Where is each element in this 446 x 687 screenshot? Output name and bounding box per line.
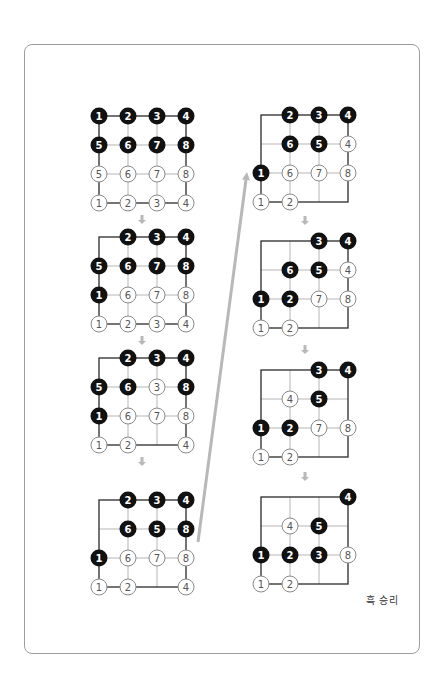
svg-text:1: 1 [258,197,264,208]
svg-text:7: 7 [316,294,322,305]
black-stone-1: 1 [91,287,108,304]
black-stone-6: 6 [120,258,137,275]
black-stone-2: 2 [282,291,299,308]
white-stone-7: 7 [311,165,327,181]
black-stone-2: 2 [282,107,299,124]
svg-text:1: 1 [258,168,265,179]
board-step-7: 3445127812 [253,362,357,466]
svg-text:4: 4 [183,319,189,330]
white-stone-5: 5 [91,166,107,182]
white-stone-2: 2 [282,320,298,336]
svg-text:4: 4 [183,495,190,506]
white-stone-4: 4 [340,262,356,278]
black-stone-5: 5 [149,521,166,538]
black-stone-6: 6 [120,521,137,538]
black-stone-1: 1 [91,408,108,425]
black-stone-6: 6 [282,136,299,153]
black-stone-6: 6 [282,262,299,279]
svg-text:4: 4 [345,365,352,376]
svg-text:6: 6 [287,168,293,179]
white-stone-7: 7 [149,287,165,303]
svg-text:3: 3 [154,353,161,364]
black-stone-2: 2 [120,350,137,367]
svg-text:3: 3 [154,198,160,209]
svg-text:4: 4 [287,521,293,532]
svg-text:2: 2 [125,582,131,593]
black-stone-4: 4 [178,492,195,509]
black-stone-4: 4 [340,489,357,506]
svg-text:6: 6 [125,169,131,180]
svg-text:2: 2 [125,111,132,122]
white-stone-8: 8 [340,420,356,436]
svg-text:6: 6 [125,140,132,151]
black-stone-7: 7 [149,137,166,154]
svg-text:4: 4 [183,232,190,243]
svg-text:8: 8 [183,382,190,393]
board-border [261,497,348,584]
svg-text:3: 3 [316,550,323,561]
black-stone-7: 7 [149,258,166,275]
white-stone-2: 2 [282,449,298,465]
white-stone-8: 8 [340,165,356,181]
svg-text:5: 5 [316,265,323,276]
white-stone-1: 1 [253,449,269,465]
black-stone-5: 5 [91,258,108,275]
board-border [99,116,186,203]
black-stone-3: 3 [149,350,166,367]
svg-text:6: 6 [287,265,294,276]
white-stone-8: 8 [178,408,194,424]
black-stone-4: 4 [178,108,195,125]
white-stone-2: 2 [120,579,136,595]
white-stone-4: 4 [178,195,194,211]
svg-text:2: 2 [287,579,293,590]
svg-text:3: 3 [316,236,323,247]
board-border [99,358,186,445]
svg-text:5: 5 [316,139,323,150]
svg-text:3: 3 [316,110,323,121]
svg-text:3: 3 [154,232,161,243]
black-stone-2: 2 [120,229,137,246]
svg-text:8: 8 [345,423,351,434]
svg-text:1: 1 [96,290,103,301]
white-stone-6: 6 [120,550,136,566]
black-stone-8: 8 [178,521,195,538]
white-stone-1: 1 [253,194,269,210]
board-step-6: 34654127812 [253,233,357,337]
down-arrow-icon [138,215,146,224]
down-arrow-icon [301,216,309,225]
black-stone-2: 2 [120,492,137,509]
black-stone-8: 8 [178,258,195,275]
white-stone-2: 2 [282,576,298,592]
black-stone-5: 5 [311,518,328,535]
white-stone-1: 1 [91,579,107,595]
svg-text:4: 4 [183,353,190,364]
black-stone-1: 1 [253,420,270,437]
svg-text:2: 2 [287,294,294,305]
board-step-1: 1234567856781234 [91,108,195,212]
white-stone-1: 1 [253,576,269,592]
svg-text:1: 1 [96,553,103,564]
svg-text:8: 8 [345,168,351,179]
svg-text:4: 4 [287,394,293,405]
svg-text:1: 1 [258,550,265,561]
svg-text:8: 8 [183,290,189,301]
svg-text:8: 8 [345,550,351,561]
svg-text:7: 7 [154,169,160,180]
svg-text:8: 8 [183,261,190,272]
svg-text:7: 7 [154,411,160,422]
svg-text:5: 5 [154,524,161,535]
white-stone-1: 1 [91,316,107,332]
svg-text:7: 7 [154,140,161,151]
black-stone-3: 3 [149,229,166,246]
white-stone-1: 1 [91,195,107,211]
svg-text:3: 3 [154,319,160,330]
white-stone-7: 7 [311,291,327,307]
black-stone-5: 5 [311,136,328,153]
svg-text:2: 2 [125,319,131,330]
white-stone-8: 8 [340,547,356,563]
svg-text:4: 4 [183,582,189,593]
board-border [261,115,348,202]
svg-text:2: 2 [125,232,132,243]
svg-text:6: 6 [287,139,294,150]
game-sequence-diagram: 1234567856781234234567816781234234563816… [0,0,446,687]
